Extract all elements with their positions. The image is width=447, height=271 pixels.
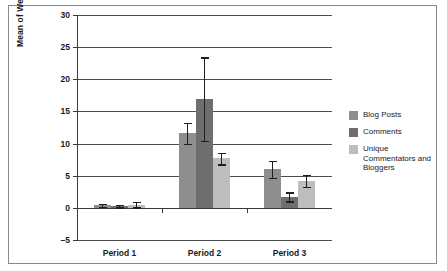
legend-swatch-icon <box>349 128 358 137</box>
error-bar-cap <box>184 144 192 145</box>
x-axis-group-tick <box>247 208 248 213</box>
legend-item-label: Comments <box>363 127 402 137</box>
error-bar-cap <box>116 207 124 208</box>
error-bar-cap <box>286 201 294 202</box>
error-bar-cap <box>133 207 141 208</box>
x-axis-tick-label: Period 3 <box>273 248 307 258</box>
y-axis-title: Mean of Weekly Instances <box>15 0 29 47</box>
y-axis-tick <box>73 111 78 112</box>
legend-item: Blog Posts <box>349 110 437 120</box>
error-bar-cap <box>218 153 226 154</box>
error-bar <box>221 153 222 165</box>
y-axis-tick-label: 15 <box>28 106 70 116</box>
y-axis-tick-label: 30 <box>28 10 70 20</box>
y-axis-tick-label: 0 <box>28 202 70 212</box>
error-bar-cap <box>269 178 277 179</box>
y-axis-tick-label: 10 <box>28 138 70 148</box>
x-axis-group-tick <box>162 208 163 213</box>
error-bar-cap <box>286 192 294 193</box>
y-axis-tick <box>73 144 78 145</box>
y-axis-tick-label: 20 <box>28 74 70 84</box>
y-axis-tick <box>73 79 78 80</box>
error-bar <box>272 161 273 178</box>
error-bar-cap <box>303 175 311 176</box>
legend-swatch-icon <box>349 145 358 154</box>
error-bar-cap <box>116 205 124 206</box>
gridline <box>77 240 332 241</box>
error-bar <box>204 57 205 141</box>
y-axis-tick-label: 25 <box>28 42 70 52</box>
y-axis-tick <box>73 176 78 177</box>
legend-item: Comments <box>349 127 437 137</box>
bar <box>213 158 230 208</box>
gridline <box>77 15 332 16</box>
y-axis-tick <box>73 47 78 48</box>
legend-item-label: Blog Posts <box>363 110 401 120</box>
legend-swatch-icon <box>349 111 358 120</box>
error-bar-cap <box>201 141 209 142</box>
error-bar <box>306 175 307 187</box>
x-axis-tick-label: Period 2 <box>188 248 222 258</box>
error-bar-cap <box>99 207 107 208</box>
legend-item-label: Unique Commentators and Bloggers <box>363 144 437 173</box>
gridline <box>77 47 332 48</box>
chart-legend: Blog PostsCommentsUnique Commentators an… <box>349 110 437 180</box>
error-bar <box>187 123 188 144</box>
error-bar-cap <box>218 164 226 165</box>
error-bar-cap <box>133 202 141 203</box>
y-axis-tick-label: 5 <box>28 170 70 180</box>
error-bar-cap <box>184 123 192 124</box>
y-axis-tick-label: –5 <box>28 235 70 245</box>
error-bar-cap <box>99 204 107 205</box>
error-bar-cap <box>303 187 311 188</box>
x-axis-tick-label: Period 1 <box>103 248 137 258</box>
y-axis-tick <box>73 15 78 16</box>
y-axis-tick <box>73 208 78 209</box>
error-bar-cap <box>269 161 277 162</box>
plot-area <box>77 15 332 240</box>
chart-figure: Mean of Weekly Instances –5051015202530 … <box>0 0 447 271</box>
error-bar-cap <box>201 57 209 58</box>
legend-item: Unique Commentators and Bloggers <box>349 144 437 173</box>
y-axis-tick <box>73 240 78 241</box>
